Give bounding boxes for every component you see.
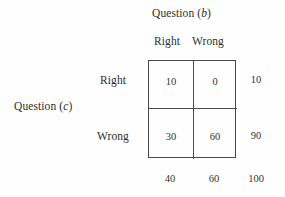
matrix-horizontal-divider	[149, 108, 237, 109]
column-header-wrong: Wrong	[192, 36, 224, 48]
row-group-title-close: )	[68, 100, 72, 112]
matrix-grid: 10 0 30 60	[148, 60, 236, 158]
cell-right-right: 10	[149, 76, 193, 87]
row-total-wrong: 90	[239, 131, 273, 142]
cell-right-wrong: 0	[193, 76, 237, 87]
row-group-title: Question (c)	[14, 101, 72, 113]
row-header-right: Right	[100, 75, 126, 87]
column-group-title: Question (b)	[152, 8, 211, 20]
column-header-right: Right	[154, 36, 180, 48]
row-header-wrong: Wrong	[97, 131, 129, 143]
column-total-wrong: 60	[192, 174, 236, 185]
column-group-title-close: )	[207, 7, 211, 19]
row-group-title-text: Question (	[14, 100, 63, 112]
row-total-right: 10	[239, 75, 273, 86]
grand-total: 100	[239, 174, 273, 185]
column-group-title-text: Question (	[152, 7, 201, 19]
cell-wrong-wrong: 60	[193, 131, 237, 142]
column-total-right: 40	[148, 174, 192, 185]
cell-wrong-right: 30	[149, 131, 193, 142]
contingency-table-figure: Question (b) Right Wrong Question (c) Ri…	[0, 0, 285, 197]
